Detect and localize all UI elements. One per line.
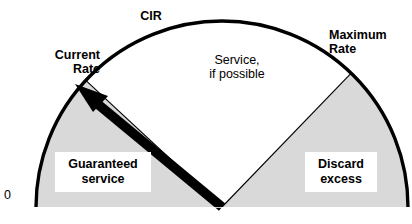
label-box-discard-excess: Discard excess xyxy=(305,152,377,192)
label-current-rate: Current Rate xyxy=(14,48,100,76)
label-cir: CIR xyxy=(127,9,175,23)
label-service-if-possible: Service, if possible xyxy=(183,53,291,81)
gauge-diagram: Current Rate CIR Maximum Rate Service, i… xyxy=(0,0,412,224)
label-zero: 0 xyxy=(4,188,11,202)
label-box-guaranteed-service: Guaranteed service xyxy=(55,152,151,192)
label-maximum-rate: Maximum Rate xyxy=(329,28,411,56)
